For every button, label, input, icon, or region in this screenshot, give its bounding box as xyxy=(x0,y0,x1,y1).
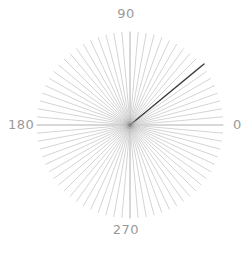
axis-label-180: 180 xyxy=(8,117,34,132)
axis-label-270: 270 xyxy=(0,222,252,237)
axis-label-90: 90 xyxy=(0,6,252,21)
polar-rose-plot xyxy=(0,0,252,255)
center-hub xyxy=(123,118,137,132)
axis-label-0: 0 xyxy=(233,117,242,132)
